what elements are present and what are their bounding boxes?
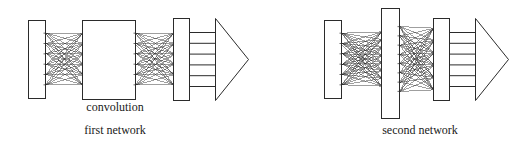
connection-line — [342, 32, 382, 33]
first-network-convolution-layer — [83, 21, 136, 100]
connection-line — [400, 41, 434, 83]
connection-line — [400, 27, 434, 29]
connection-line — [342, 85, 382, 86]
first-network-output-arrow — [216, 19, 249, 101]
second-network-connection-bundle-1 — [342, 32, 382, 86]
first-network-caption: first network — [84, 123, 146, 137]
second-network-caption: second network — [382, 123, 458, 137]
connection-line — [400, 53, 434, 55]
second-network-connection-bundle-2 — [400, 27, 434, 92]
connection-line — [342, 47, 382, 74]
connection-line — [400, 90, 434, 92]
first-network-connection-bundle-1 — [46, 33, 83, 85]
second-network-hidden-layer — [382, 9, 400, 119]
network-first-network — [29, 19, 249, 101]
first-network-output-cells — [190, 33, 216, 87]
second-network-output-cells — [450, 33, 476, 87]
connection-line — [342, 63, 382, 64]
connection-line — [400, 41, 434, 73]
first-network-connection-bundle-2 — [136, 33, 174, 85]
connection-line — [400, 64, 434, 66]
convolution-label: convolution — [86, 100, 143, 114]
connection-line — [342, 40, 382, 75]
second-network-output-arrow — [476, 19, 509, 101]
second-network-input-layer — [325, 21, 342, 99]
diagram-canvas: convolution first network second network — [0, 0, 526, 150]
connection-line — [342, 54, 382, 55]
first-network-input-layer — [29, 21, 46, 99]
first-network-output-layer — [174, 19, 190, 101]
network-second-network — [325, 9, 509, 119]
second-network-output-layer — [434, 19, 450, 101]
